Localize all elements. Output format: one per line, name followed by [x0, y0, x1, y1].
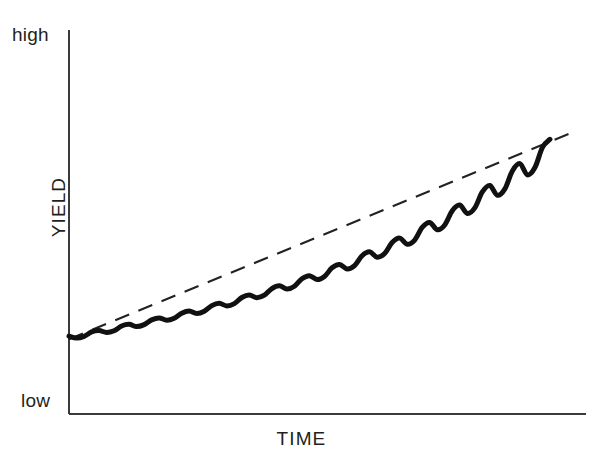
y-axis-low-tick-label: low — [21, 390, 50, 412]
chart-figure: high low YIELD TIME — [0, 0, 603, 471]
trend-line-dashed — [69, 133, 570, 339]
chart-plot-area — [0, 0, 603, 471]
axes-group — [69, 30, 586, 414]
y-axis-title: YIELD — [48, 147, 70, 267]
y-axis-high-tick-label: high — [12, 24, 49, 46]
x-axis-title: TIME — [0, 428, 603, 450]
yield-curve-line — [69, 139, 550, 338]
